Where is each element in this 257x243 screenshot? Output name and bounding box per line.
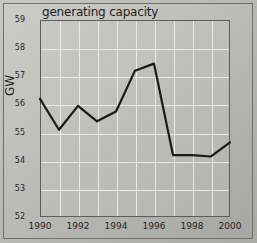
x-axis-tick-label: 1994 xyxy=(105,221,128,231)
x-axis-tick-label: 1998 xyxy=(181,221,204,231)
y-axis-tick-label: 56 xyxy=(0,100,25,108)
x-axis-tick-label: 1992 xyxy=(67,221,90,231)
chart-screenshot: generating capacity GW 5253545556575859 … xyxy=(0,0,257,243)
y-axis-tick-label: 54 xyxy=(0,157,25,165)
chart-title: generating capacity xyxy=(42,5,158,19)
data-line-layer xyxy=(40,20,230,217)
y-axis-tick-label: 52 xyxy=(0,213,25,221)
x-axis-tick-label: 2000 xyxy=(219,221,242,231)
data-series-line xyxy=(40,64,230,157)
x-axis-tick-label: 1996 xyxy=(143,221,166,231)
y-axis-tick-label: 53 xyxy=(0,185,25,193)
y-axis-tick-label: 57 xyxy=(0,72,25,80)
y-axis-tick-label: 55 xyxy=(0,129,25,137)
x-axis-tick-label: 1990 xyxy=(29,221,52,231)
y-axis-tick-label: 59 xyxy=(0,16,25,24)
y-axis-tick-label: 58 xyxy=(0,44,25,52)
